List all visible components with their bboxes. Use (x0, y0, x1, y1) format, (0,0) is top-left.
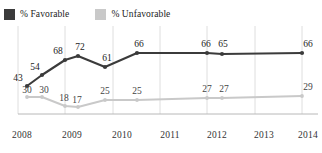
chart-screenshot: % Favorable % Unfavorable (0, 0, 322, 153)
data-point (103, 98, 107, 102)
data-labels-favorable: 43 54 68 72 61 66 66 65 66 (13, 39, 313, 83)
data-label-unfavorable: 17 (72, 95, 82, 105)
legend-label-favorable: % Favorable (20, 9, 69, 19)
x-axis-labels: 2008 2009 2010 2011 2012 2013 2014 (0, 130, 322, 148)
series-favorable-markers (25, 51, 304, 88)
data-label-favorable: 66 (134, 39, 144, 49)
data-label-favorable: 65 (218, 39, 228, 49)
x-tick-2013: 2013 (254, 130, 274, 140)
plot-area: 43 54 68 72 61 66 66 65 66 30 30 18 17 2… (0, 26, 322, 126)
data-point (135, 51, 139, 55)
data-point (63, 58, 67, 62)
x-tick-2010: 2010 (112, 130, 132, 140)
data-point (40, 73, 44, 77)
x-tick-2009: 2009 (62, 130, 82, 140)
data-point (135, 98, 139, 102)
data-labels-unfavorable: 30 30 18 17 25 25 27 27 29 (22, 82, 313, 105)
x-tick-2008: 2008 (12, 130, 32, 140)
legend-swatch-favorable (4, 9, 15, 20)
legend-item-unfavorable: % Unfavorable (95, 9, 170, 20)
data-label-favorable: 66 (201, 39, 211, 49)
data-label-unfavorable: 25 (100, 86, 110, 96)
data-point (63, 104, 67, 108)
legend-swatch-unfavorable (95, 9, 106, 20)
data-label-unfavorable: 25 (132, 86, 142, 96)
data-point (205, 51, 209, 55)
data-point (40, 95, 44, 99)
data-label-unfavorable: 27 (202, 84, 212, 94)
data-label-unfavorable: 18 (59, 93, 69, 103)
chart-svg: 43 54 68 72 61 66 66 65 66 30 30 18 17 2… (0, 26, 322, 126)
data-point (300, 94, 304, 98)
data-label-favorable: 61 (102, 53, 112, 63)
series-favorable-line (27, 53, 302, 86)
data-label-favorable: 43 (13, 73, 23, 83)
data-point (103, 65, 107, 69)
data-point (205, 96, 209, 100)
data-label-unfavorable: 27 (219, 84, 229, 94)
data-label-unfavorable: 30 (22, 85, 32, 95)
data-point (76, 54, 80, 58)
data-label-unfavorable: 30 (39, 85, 49, 95)
data-point (300, 51, 304, 55)
data-point (76, 105, 80, 109)
data-point (220, 96, 224, 100)
chart-legend: % Favorable % Unfavorable (4, 6, 196, 22)
legend-label-unfavorable: % Unfavorable (111, 9, 170, 19)
x-tick-2011: 2011 (160, 130, 179, 140)
data-point (25, 95, 29, 99)
data-point (220, 52, 224, 56)
data-label-favorable: 66 (303, 39, 313, 49)
data-label-favorable: 72 (75, 42, 85, 52)
x-tick-2014: 2014 (298, 130, 318, 140)
series-favorable (25, 51, 304, 88)
data-label-favorable: 68 (53, 46, 63, 56)
legend-item-favorable: % Favorable (4, 9, 69, 20)
x-tick-2012: 2012 (207, 130, 227, 140)
data-label-unfavorable: 29 (303, 82, 313, 92)
data-label-favorable: 54 (30, 62, 40, 72)
